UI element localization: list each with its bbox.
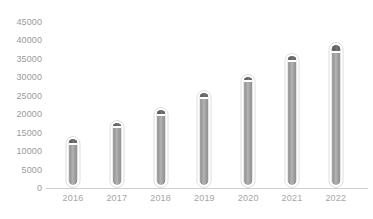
bar-cap-divider (331, 51, 340, 53)
bar-fill (244, 77, 253, 185)
bar-cap-divider (244, 80, 253, 82)
y-axis-tick-label: 25000 (16, 91, 42, 101)
bar-inner (156, 110, 165, 185)
x-axis-tick-label: 2022 (325, 193, 346, 204)
y-axis-tick-label: 45000 (16, 17, 42, 27)
bar-fill (156, 110, 165, 185)
bar-cap-divider (156, 114, 165, 116)
bar[interactable] (241, 74, 256, 188)
bar-fill (200, 93, 209, 185)
x-axis-tick-label: 2020 (238, 193, 259, 204)
bar-inner (69, 139, 78, 185)
y-axis-tick-label: 5000 (22, 165, 42, 175)
bar-fill (69, 139, 78, 185)
x-axis-tick-label: 2018 (150, 193, 171, 204)
bar[interactable] (66, 136, 81, 188)
y-axis: 0500010000150002000025000300003500040000… (0, 0, 46, 219)
y-axis-tick-label: 40000 (16, 35, 42, 45)
x-axis-tick-label: 2017 (106, 193, 127, 204)
bar[interactable] (328, 42, 343, 188)
bar-inner (288, 56, 297, 185)
x-axis-tick-label: 2019 (194, 193, 215, 204)
y-axis-tick-label: 35000 (16, 54, 42, 64)
bar[interactable] (197, 90, 212, 188)
bar-inner (200, 93, 209, 185)
bar-cap-divider (200, 97, 209, 99)
bar-chart: 0500010000150002000025000300003500040000… (0, 0, 373, 219)
y-axis-tick-label: 0 (37, 183, 42, 193)
y-axis-tick-label: 10000 (16, 146, 42, 156)
bar[interactable] (153, 107, 168, 188)
plot-area (46, 0, 373, 219)
bar-fill (112, 123, 121, 185)
bar[interactable] (109, 120, 124, 188)
bar-inner (244, 77, 253, 185)
bar-fill (331, 45, 340, 185)
bar[interactable] (285, 53, 300, 188)
bar-inner (112, 123, 121, 185)
bar-inner (331, 45, 340, 185)
bar-cap-divider (112, 126, 121, 128)
y-axis-tick-label: 30000 (16, 72, 42, 82)
x-axis-tick-label: 2016 (63, 193, 84, 204)
y-axis-tick-label: 15000 (16, 128, 42, 138)
y-axis-tick-label: 20000 (16, 109, 42, 119)
x-axis-tick-label: 2021 (282, 193, 303, 204)
bar-cap-divider (288, 60, 297, 62)
bar-fill (288, 56, 297, 185)
axis-baseline (46, 188, 368, 189)
bar-cap-divider (69, 143, 78, 145)
